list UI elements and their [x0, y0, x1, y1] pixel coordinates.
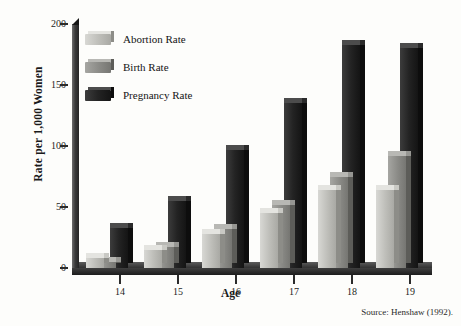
y-axis-tick: 150 [24, 79, 66, 91]
bar-topside [186, 196, 191, 201]
legend-swatch-side [111, 87, 114, 98]
bar-topside [418, 43, 423, 48]
bar-topside [302, 98, 307, 103]
x-axis-title: Age [0, 287, 461, 299]
legend-label: Pregnancy Rate [123, 87, 192, 104]
bar-top [260, 208, 278, 213]
bar-side [278, 208, 283, 263]
plot-area: 141516171819 [72, 18, 432, 268]
y-axis-tick-mark [60, 267, 68, 269]
bar-top [388, 151, 406, 156]
bar-top [86, 253, 104, 258]
bar-abortion-rate-age-15 [144, 250, 162, 268]
x-axis-tick-mark [235, 275, 237, 284]
bar-topside [244, 145, 249, 150]
bar-group [376, 18, 431, 268]
bar-topside [162, 245, 167, 250]
bar-top [376, 185, 394, 190]
bar-topside [116, 257, 121, 262]
bar-side [394, 185, 399, 263]
bar-side [128, 223, 133, 263]
bar-top [272, 200, 290, 205]
bar-side [418, 43, 423, 263]
bar-abortion-rate-age-19 [376, 190, 394, 268]
x-axis-tick-mark [119, 275, 121, 284]
legend-label: Abortion Rate [123, 31, 186, 48]
bar-side [232, 224, 237, 263]
y-axis-tick-mark [60, 206, 68, 208]
legend-swatch-face [85, 90, 111, 101]
legend-label: Birth Rate [123, 59, 169, 76]
legend-swatch-side [111, 59, 114, 70]
bar-face [318, 190, 336, 268]
bar-abortion-rate-age-18 [318, 190, 336, 268]
bar-topside [360, 40, 365, 45]
bar-top [330, 172, 348, 177]
x-axis-tick-mark [177, 275, 179, 284]
bar-topside [128, 223, 133, 228]
bar-topside [278, 208, 283, 213]
y-axis-tick: 200 [24, 18, 66, 30]
x-axis-tick-mark [351, 275, 353, 284]
bar-topside [220, 229, 225, 234]
y-axis-spine [72, 24, 79, 274]
light-grey-bar-swatch [85, 34, 111, 45]
source-note: Source: Henshaw (1992). [361, 307, 453, 317]
bar-group [86, 18, 141, 268]
bar-side [186, 196, 191, 263]
bar-topside [336, 185, 341, 190]
bar-top [110, 223, 128, 228]
y-axis-tick: 100 [24, 140, 66, 152]
bar-abortion-rate-age-16 [202, 234, 220, 268]
bar-abortion-rate-age-14 [86, 258, 104, 268]
bar-side [360, 40, 365, 263]
bar-topside [406, 151, 411, 156]
bar-group [318, 18, 373, 268]
y-axis-tick: 50 [24, 201, 66, 213]
chart-figure: Rate per 1,000 Women 200150100500 141516… [0, 0, 461, 326]
legend-swatch-face [85, 34, 111, 45]
bar-top [318, 185, 336, 190]
bar-side [348, 172, 353, 264]
bar-topside [174, 242, 179, 247]
y-axis-ticks: 200150100500 [24, 0, 66, 326]
bar-face [260, 213, 278, 268]
bar-topside [290, 200, 295, 205]
legend-swatch-face [85, 62, 111, 73]
bar-group [144, 18, 199, 268]
bar-side [336, 185, 341, 263]
black-bar-swatch [85, 90, 111, 101]
bar-group [202, 18, 257, 268]
x-axis-tick-mark [293, 275, 295, 284]
y-axis-tick-mark [60, 145, 68, 147]
bar-face [86, 258, 104, 268]
bar-top [342, 40, 360, 45]
bar-face [376, 190, 394, 268]
bar-top [226, 145, 244, 150]
bar-side [220, 229, 225, 263]
bar-top [284, 98, 302, 103]
bar-side [302, 98, 307, 263]
bar-topside [232, 224, 237, 229]
bar-side [290, 200, 295, 263]
y-axis-tick-mark [60, 84, 68, 86]
x-axis-floor-front [72, 268, 432, 275]
y-axis-tick: 0 [24, 262, 66, 274]
bar-side [406, 151, 411, 263]
medium-grey-bar-swatch [85, 62, 111, 73]
bar-topside [348, 172, 353, 177]
bar-side [244, 145, 249, 263]
bar-top [144, 245, 162, 250]
bar-group [260, 18, 315, 268]
bar-abortion-rate-age-17 [260, 213, 278, 268]
bar-top [400, 43, 418, 48]
bar-top [202, 229, 220, 234]
bar-face [144, 250, 162, 268]
bar-face [202, 234, 220, 268]
bar-topside [104, 253, 109, 258]
bar-topside [394, 185, 399, 190]
bar-top [168, 196, 186, 201]
x-axis-tick-mark [409, 275, 411, 284]
y-axis-tick-mark [60, 23, 68, 25]
legend-swatch-side [111, 31, 114, 42]
